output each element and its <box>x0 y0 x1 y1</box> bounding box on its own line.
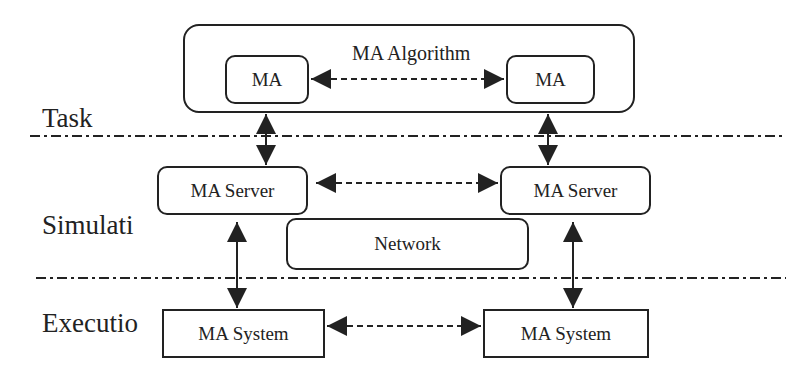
layer-label-simulation: Simulati <box>42 210 134 241</box>
ma-algorithm-label: MA Algorithm <box>352 42 470 65</box>
ma-server-right: MA Server <box>500 166 651 215</box>
ma-server-right-label: MA Server <box>534 180 618 202</box>
network-label: Network <box>374 233 440 255</box>
layer-label-task: Task <box>42 103 93 134</box>
ma-node-left-label: MA <box>252 69 283 91</box>
layer-label-execution: Executio <box>42 308 138 339</box>
ma-system-right: MA System <box>483 309 649 358</box>
ma-system-left-label: MA System <box>198 323 288 345</box>
ma-server-left: MA Server <box>157 166 308 215</box>
ma-system-right-label: MA System <box>521 323 611 345</box>
ma-node-left: MA <box>225 55 309 104</box>
ma-server-left-label: MA Server <box>191 180 275 202</box>
ma-node-right: MA <box>506 55 595 104</box>
ma-node-right-label: MA <box>535 69 566 91</box>
ma-system-left: MA System <box>162 309 325 358</box>
network-box: Network <box>286 218 529 270</box>
